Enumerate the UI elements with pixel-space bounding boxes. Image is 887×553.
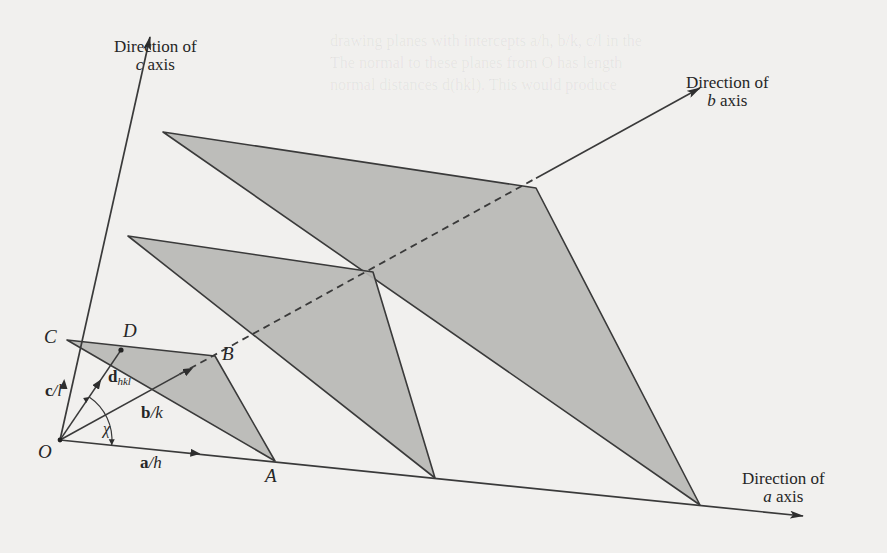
a-axis-line xyxy=(60,440,803,516)
point-label-D: D xyxy=(123,322,137,340)
vector-label-b-over-k: b/k xyxy=(141,404,163,422)
angle-chi-label: χ xyxy=(103,420,110,438)
a-axis-suffix: axis xyxy=(772,487,804,506)
point-label-C: C xyxy=(44,328,57,346)
a-axis-letter: a xyxy=(763,487,772,506)
vector-a-divisor: /h xyxy=(149,453,162,472)
point-label-A: A xyxy=(265,467,277,485)
vector-c-symbol: c xyxy=(45,381,53,400)
vector-label-d-hkl: dhkl xyxy=(108,368,131,390)
vector-c-divisor: /l xyxy=(53,381,62,400)
b-axis-line-visible xyxy=(536,88,700,178)
vector-label-c-over-l: c/l xyxy=(45,382,62,400)
hkl-planes xyxy=(67,132,700,505)
point-label-origin: O xyxy=(38,443,52,461)
d-hkl-arrow xyxy=(98,383,99,384)
b-axis-suffix: axis xyxy=(716,91,748,110)
c-axis-label-line1: Direction of xyxy=(114,38,197,56)
a-axis-label-line1: Direction of xyxy=(742,470,825,488)
b-axis-label-line1: Direction of xyxy=(686,74,769,92)
b-axis-label: Direction of b axis xyxy=(686,74,769,110)
vector-label-a-over-h: a/h xyxy=(140,454,162,472)
vector-a-symbol: a xyxy=(140,453,149,472)
angle-arc-tick xyxy=(83,397,89,403)
a-axis-label: Direction of a axis xyxy=(742,470,825,506)
point-label-B: B xyxy=(222,345,234,363)
c-axis-label: Direction of c axis xyxy=(114,38,197,74)
c-axis-suffix: axis xyxy=(143,55,175,74)
vector-d-subscript: hkl xyxy=(117,375,130,387)
origin-dot xyxy=(58,438,63,443)
b-axis-letter: b xyxy=(707,91,716,110)
d-hkl-vector xyxy=(60,350,121,440)
point-D-dot xyxy=(118,347,123,352)
vector-b-divisor: /k xyxy=(150,403,162,422)
lattice-planes-diagram: drawing planes with intercepts a/h, b/k,… xyxy=(0,0,887,553)
hkl-plane xyxy=(67,340,275,461)
